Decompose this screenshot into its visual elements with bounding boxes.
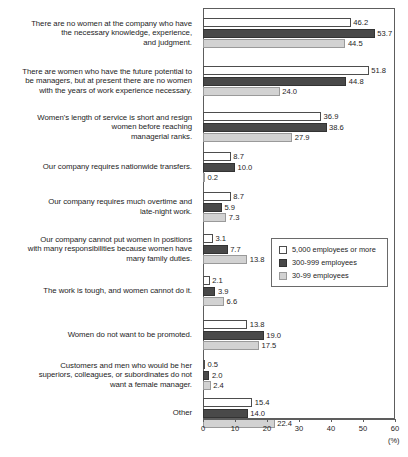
bar-value-label: 10.0 xyxy=(238,163,253,172)
bar-line: 36.9 xyxy=(203,112,338,121)
bar xyxy=(203,133,292,142)
x-axis-tick-label: 50 xyxy=(359,424,367,433)
x-axis-tick-label: 30 xyxy=(295,424,303,433)
category-label-line: want a female manager. xyxy=(0,380,192,390)
category-label-line: superiors, colleagues, or subordinates d… xyxy=(0,370,192,380)
bar-line: 53.7 xyxy=(203,29,392,38)
bar-line: 13.8 xyxy=(203,320,264,329)
bar xyxy=(203,213,226,222)
category-label-line: late-night work. xyxy=(0,207,192,217)
bar xyxy=(203,203,222,212)
bar-value-label: 53.7 xyxy=(377,29,392,38)
bar-line: 0.5 xyxy=(203,360,218,369)
bar-line: 7.3 xyxy=(203,213,239,222)
x-axis-tick-label: 0 xyxy=(201,424,205,433)
bar-line: 19.0 xyxy=(203,331,281,340)
bar xyxy=(203,398,252,407)
bar xyxy=(203,123,327,132)
bar-line: 10.0 xyxy=(203,163,252,172)
bar-value-label: 44.5 xyxy=(348,39,363,48)
category-label-line: Our company requires much overtime and xyxy=(0,197,192,207)
bar-value-label: 2.1 xyxy=(212,276,223,285)
bar-line: 6.6 xyxy=(203,297,237,306)
bar-value-label: 0.2 xyxy=(208,173,219,182)
chart-row: There are women who have the future pote… xyxy=(0,66,408,96)
bar xyxy=(203,87,280,96)
bar-value-label: 7.7 xyxy=(230,245,241,254)
chart-row: There are no women at the company who ha… xyxy=(0,18,408,48)
bar-value-label: 15.4 xyxy=(255,398,270,407)
category-label: Women do not want to be promoted. xyxy=(0,330,197,340)
bar-value-label: 14.0 xyxy=(250,409,265,418)
bar-line: 3.1 xyxy=(203,234,226,243)
category-label: Our company cannot put women in position… xyxy=(0,235,197,264)
legend-swatch-icon-2 xyxy=(279,272,287,280)
bar-value-label: 7.3 xyxy=(229,213,240,222)
bar-group: 13.819.017.5 xyxy=(203,320,395,350)
x-axis-tick xyxy=(395,419,396,422)
bar-line: 7.7 xyxy=(203,245,241,254)
footnote-text xyxy=(6,450,402,457)
legend-label-1: 300-999 employees xyxy=(292,258,357,267)
category-label-line: the necessary knowledge, experience, xyxy=(0,28,192,38)
bar-line: 8.7 xyxy=(203,152,244,161)
bar-line: 14.0 xyxy=(203,409,265,418)
bar-value-label: 38.6 xyxy=(329,123,344,132)
legend-label-2: 30-99 employees xyxy=(292,271,349,280)
x-axis-tick xyxy=(331,419,332,422)
category-label-line: Women do not want to be promoted. xyxy=(0,330,192,340)
bar-line: 44.8 xyxy=(203,77,364,86)
bar-line: 46.2 xyxy=(203,18,368,27)
x-axis-tick xyxy=(299,419,300,422)
bar-line: 51.8 xyxy=(203,66,386,75)
bar xyxy=(203,409,248,418)
bar xyxy=(203,234,213,243)
bar xyxy=(203,341,259,350)
bar-value-label: 13.8 xyxy=(250,255,265,264)
chart-row: Our company requires nationwide transfer… xyxy=(0,152,408,182)
bar-line: 27.9 xyxy=(203,133,310,142)
bar-value-label: 27.9 xyxy=(295,133,310,142)
category-label: The work is tough, and women cannot do i… xyxy=(0,286,197,296)
bar-group: 0.52.02.4 xyxy=(203,360,395,390)
category-label-line: and judgment. xyxy=(0,38,192,48)
x-axis-tick-label: 40 xyxy=(327,424,335,433)
category-label-line: There are no women at the company who ha… xyxy=(0,19,192,29)
legend-label-0: 5,000 employees or more xyxy=(292,245,376,254)
bar-line: 24.0 xyxy=(203,87,297,96)
legend-swatch-icon-0 xyxy=(279,246,287,254)
x-axis-tick xyxy=(235,419,236,422)
bar-line: 3.9 xyxy=(203,287,229,296)
bar xyxy=(203,39,345,48)
bar xyxy=(203,320,247,329)
chart-row: Customers and men who would be hersuperi… xyxy=(0,360,408,390)
x-axis-tick xyxy=(267,419,268,422)
bar xyxy=(203,66,369,75)
category-label-line: Other xyxy=(0,408,192,418)
category-label: There are no women at the company who ha… xyxy=(0,19,197,48)
bar xyxy=(203,163,235,172)
bar-line: 38.6 xyxy=(203,123,344,132)
bar-value-label: 36.9 xyxy=(324,112,339,121)
bar-value-label: 0.5 xyxy=(208,360,219,369)
category-label: Our company requires nationwide transfer… xyxy=(0,162,197,172)
bar xyxy=(203,297,224,306)
bar-value-label: 17.5 xyxy=(262,341,277,350)
category-label-line: be managers, but at present there are no… xyxy=(0,76,192,86)
bar-line: 13.8 xyxy=(203,255,264,264)
bar xyxy=(203,152,231,161)
bar-group: 8.710.00.2 xyxy=(203,152,395,182)
category-label: Other xyxy=(0,408,197,418)
category-label-line: women before reaching xyxy=(0,122,192,132)
category-label-line: many family duties. xyxy=(0,254,192,264)
bar-line: 0.2 xyxy=(203,173,218,182)
bar-value-label: 3.1 xyxy=(215,234,226,243)
bar-line: 2.0 xyxy=(203,371,222,380)
legend-item-0: 5,000 employees or more xyxy=(279,244,381,255)
category-label: There are women who have the future pote… xyxy=(0,67,197,96)
x-axis-tick-label: 20 xyxy=(263,424,271,433)
bar xyxy=(203,77,346,86)
category-label-line: Women's length of service is short and r… xyxy=(0,113,192,123)
legend-item-1: 300-999 employees xyxy=(279,257,381,268)
bar xyxy=(203,255,247,264)
